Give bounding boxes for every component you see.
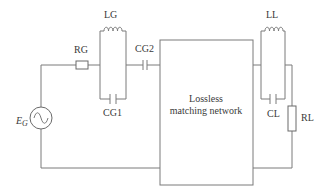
cg1-label: CG1 [103,107,122,118]
rg-resistor-icon [76,61,88,69]
source-label: EG [15,115,28,128]
generator-circuit: EG RG LG CG1 CG2 [15,9,160,168]
lossless-matching-network: Lossless matching network [160,40,253,185]
network-label-line1: Lossless [189,93,223,104]
rl-label: RL [301,112,314,123]
cl-capacitor-icon [270,94,276,104]
cl-label: CL [267,108,280,119]
rg-label: RG [74,44,88,55]
cg2-capacitor-icon [143,60,147,70]
cg2-label: CG2 [135,43,154,54]
lg-cg1-tank [100,27,126,104]
network-label-line2: matching network [170,105,242,116]
wire-left-top [41,65,76,107]
wire-return [41,129,160,168]
load-circuit: LL CL RL [253,9,314,168]
circuit-diagram: EG RG LG CG1 CG2 [0,0,325,195]
cg1-capacitor-icon [110,94,116,104]
ac-source-icon [30,107,52,129]
rl-resistor-icon [288,106,296,131]
ll-label: LL [266,9,278,20]
ll-inductor-icon [265,27,283,31]
lg-label: LG [104,9,117,20]
lg-inductor-icon [104,27,122,31]
